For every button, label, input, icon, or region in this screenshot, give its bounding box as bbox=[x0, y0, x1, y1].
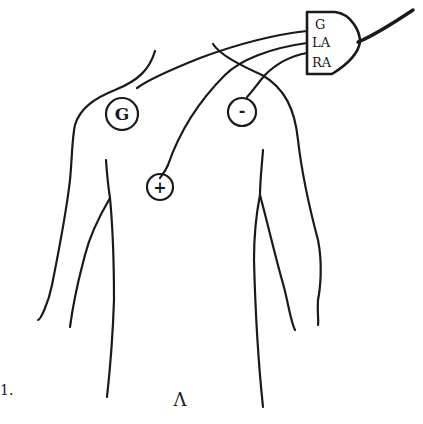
wire-positive bbox=[160, 43, 307, 178]
ecg-diagram: G LA RA G - + 1. Λ bbox=[0, 0, 423, 424]
connector-label-la: LA bbox=[312, 35, 331, 50]
left-torso-side bbox=[107, 198, 114, 397]
lead-connector: G LA RA bbox=[307, 12, 360, 74]
electrode-negative: - bbox=[228, 98, 256, 126]
electrode-ground-label: G bbox=[115, 104, 130, 124]
left-shoulder-arm-outer bbox=[38, 51, 155, 320]
connector-label-ra: RA bbox=[312, 55, 332, 70]
electrode-ground: G bbox=[106, 98, 138, 130]
torso-outline bbox=[38, 44, 321, 407]
electrode-negative-label: - bbox=[239, 101, 246, 120]
connector-label-g: G bbox=[315, 17, 325, 32]
right-inner-arm bbox=[260, 150, 295, 330]
right-shoulder-arm-outer bbox=[213, 44, 321, 325]
right-torso-side bbox=[254, 195, 263, 407]
electrode-positive-label: + bbox=[153, 178, 166, 197]
left-inner-arm bbox=[70, 160, 110, 327]
main-cable bbox=[358, 10, 413, 42]
lead-wires bbox=[137, 10, 413, 178]
navel-mark: Λ bbox=[173, 389, 188, 410]
wire-negative bbox=[247, 53, 307, 97]
electrode-positive: + bbox=[147, 174, 173, 200]
figure-label: 1. bbox=[0, 382, 13, 398]
